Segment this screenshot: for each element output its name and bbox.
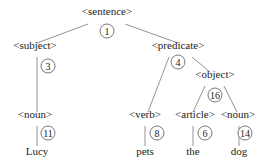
node-number-sentence: 1	[100, 24, 115, 39]
node-number-subject: 3	[41, 59, 56, 74]
node-label-predicate: <predicate>	[152, 39, 205, 51]
node-label-sentence: <sentence>	[82, 5, 132, 17]
node-label-noun1: <noun>	[18, 108, 52, 120]
node-label-article: <article>	[175, 108, 215, 120]
leaf-word-dog: dog	[231, 145, 248, 157]
node-label-noun2: <noun>	[221, 108, 255, 120]
leaf-word-the: the	[186, 145, 199, 157]
node-label-verb: <verb>	[129, 108, 161, 120]
node-number-noun1: 11	[41, 126, 56, 141]
node-number-verb: 8	[150, 126, 165, 141]
leaf-word-pets: pets	[136, 145, 154, 157]
tree-edges	[0, 0, 271, 167]
node-label-object: <object>	[195, 68, 234, 80]
node-label-subject: <subject>	[13, 39, 57, 51]
node-number-predicate: 4	[171, 55, 186, 70]
node-number-object: 16	[208, 88, 223, 103]
leaf-word-lucy: Lucy	[26, 145, 49, 157]
node-number-article: 6	[198, 126, 213, 141]
node-number-noun2: 14	[238, 126, 253, 141]
